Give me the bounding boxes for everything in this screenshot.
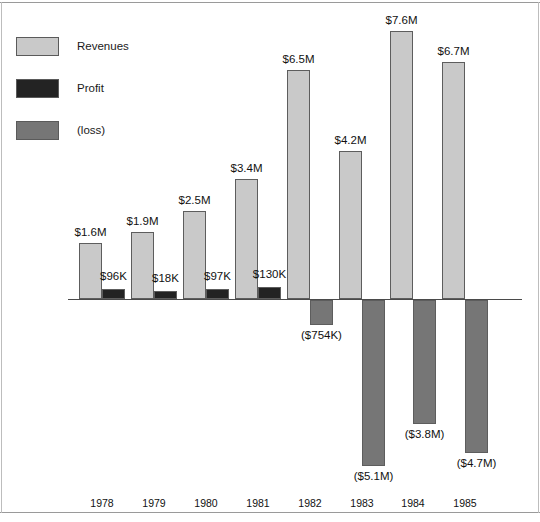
revenue-value-label-1983: $4.2M xyxy=(311,134,391,146)
x-axis-label-1982: 1982 xyxy=(290,497,330,509)
x-axis-label-1980: 1980 xyxy=(186,497,226,509)
x-axis-label-1979: 1979 xyxy=(134,497,174,509)
profit-bar-1979 xyxy=(154,291,177,299)
revenue-bar-1979 xyxy=(131,232,154,299)
loss-bar-1985 xyxy=(465,300,488,453)
x-axis-label-1983: 1983 xyxy=(342,497,382,509)
revenue-bar-1983 xyxy=(339,151,362,299)
loss-value-label-1984: ($3.8M) xyxy=(385,428,465,440)
loss-bar-1982 xyxy=(310,300,333,325)
x-axis-label-1978: 1978 xyxy=(82,497,122,509)
revenue-bar-1985 xyxy=(442,62,465,299)
revenue-value-label-1982: $6.5M xyxy=(259,53,339,65)
revenue-value-label-1981: $3.4M xyxy=(207,162,287,174)
loss-value-label-1985: ($4.7M) xyxy=(437,457,517,469)
zero-axis-line xyxy=(68,299,522,300)
loss-value-label-1982: ($754K) xyxy=(282,329,362,341)
x-axis-label-1985: 1985 xyxy=(445,497,485,509)
x-axis-label-1984: 1984 xyxy=(393,497,433,509)
x-axis-label-1981: 1981 xyxy=(238,497,278,509)
revenue-bar-1984 xyxy=(390,31,413,299)
revenue-bar-1981 xyxy=(235,179,258,299)
profit-bar-1981 xyxy=(258,287,281,299)
revenue-value-label-1980: $2.5M xyxy=(155,194,235,206)
loss-bar-1983 xyxy=(362,300,385,466)
profit-bar-1980 xyxy=(206,289,229,299)
chart-container: Revenues Profit (loss) $1.6M$96K$1.9M$18… xyxy=(0,0,540,522)
profit-bar-1978 xyxy=(102,289,125,299)
revenue-value-label-1985: $6.7M xyxy=(414,45,494,57)
loss-value-label-1983: ($5.1M) xyxy=(334,470,414,482)
revenue-bar-1980 xyxy=(183,211,206,299)
loss-bar-1984 xyxy=(413,300,436,424)
revenue-value-label-1979: $1.9M xyxy=(103,215,183,227)
revenue-value-label-1984: $7.6M xyxy=(362,14,442,26)
revenue-value-label-1978: $1.6M xyxy=(51,226,131,238)
revenue-bar-1982 xyxy=(287,70,310,299)
plot-area: $1.6M$96K$1.9M$18K$2.5M$97K$3.4M$130K$6.… xyxy=(0,0,540,522)
